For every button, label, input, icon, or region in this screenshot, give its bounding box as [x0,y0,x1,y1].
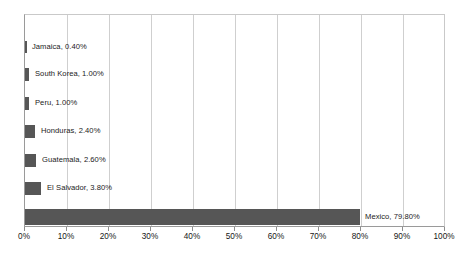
bar-mexico[interactable] [25,209,360,225]
x-tick-label-20: 20% [100,233,116,241]
x-tick-label-60: 60% [268,233,284,241]
gridline-40 [193,15,194,226]
bar-label-jamaica: Jamaica, 0.40% [32,43,87,51]
x-tick-mark-0 [24,227,25,231]
bar-guatemala[interactable] [25,154,36,167]
x-tick-label-100: 100% [434,233,455,241]
x-tick-mark-50 [234,227,235,231]
x-tick-mark-30 [150,227,151,231]
gridline-90 [403,15,404,226]
bar-label-peru: Peru, 1.00% [35,99,77,107]
x-tick-label-50: 50% [226,233,242,241]
bar-south-korea[interactable] [25,68,29,81]
x-tick-mark-90 [402,227,403,231]
bar-jamaica[interactable] [25,41,27,53]
bar-label-honduras: Honduras, 2.40% [41,127,100,135]
x-tick-label-0: 0% [18,233,30,241]
plot-area: Jamaica, 0.40% South Korea, 1.00% Peru, … [24,14,445,227]
x-tick-mark-60 [276,227,277,231]
gridline-60 [277,15,278,226]
x-tick-label-80: 80% [352,233,368,241]
gridline-30 [151,15,152,226]
bar-chart: Jamaica, 0.40% South Korea, 1.00% Peru, … [0,0,475,265]
x-tick-label-30: 30% [142,233,158,241]
bar-honduras[interactable] [25,125,35,138]
bar-peru[interactable] [25,97,29,110]
x-tick-mark-10 [66,227,67,231]
x-tick-label-40: 40% [184,233,200,241]
x-axis: 0% 10% 20% 30% 40% 50% 60% 70% 80% 90% 1… [24,227,445,247]
bar-label-el-salvador: El Salvador, 3.80% [47,184,112,192]
gridline-70 [319,15,320,226]
bar-el-salvador[interactable] [25,182,41,195]
x-tick-mark-70 [318,227,319,231]
bar-label-south-korea: South Korea, 1.00% [35,70,104,78]
bar-label-guatemala: Guatemala, 2.60% [42,156,106,164]
x-tick-mark-40 [192,227,193,231]
x-tick-mark-80 [360,227,361,231]
x-tick-label-10: 10% [58,233,74,241]
gridline-80 [361,15,362,226]
x-tick-label-90: 90% [394,233,410,241]
x-tick-mark-20 [108,227,109,231]
x-tick-label-70: 70% [310,233,326,241]
gridline-20 [109,15,110,226]
x-tick-mark-100 [444,227,445,231]
gridline-50 [235,15,236,226]
bar-label-mexico: Mexico, 79.80% [365,213,420,221]
